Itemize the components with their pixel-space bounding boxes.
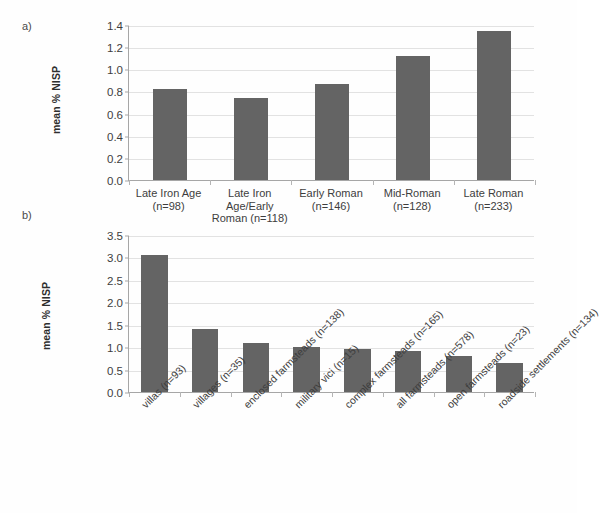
bar[interactable]: [153, 89, 187, 180]
panel-b-tag: b): [22, 209, 32, 221]
x-axis-category-label: Mid-Roman(n=128): [372, 187, 453, 212]
x-axis-tick-mark: [129, 180, 130, 185]
y-axis-tick-mark: [125, 236, 129, 237]
x-axis-tick-mark: [434, 392, 435, 397]
x-axis-category-label: Late IronAge/EarlyRoman (n=118): [209, 187, 290, 225]
x-axis-category-label-line: Mid-Roman: [372, 187, 453, 200]
y-axis-tick-mark: [125, 258, 129, 259]
x-axis-tick-mark: [454, 180, 455, 185]
x-axis-tick-mark: [210, 180, 211, 185]
x-axis-tick-mark: [129, 392, 130, 397]
y-axis-tick-mark: [125, 348, 129, 349]
y-axis-tick-mark: [125, 26, 129, 27]
panel-b-y-axis-title: mean % NISP: [40, 256, 52, 376]
x-axis-category-label-line: Late Iron: [209, 187, 290, 200]
y-axis-tick-label: 2.0: [107, 297, 123, 309]
x-axis-tick-mark: [535, 180, 536, 185]
x-axis-category-label-line: Age/Early: [209, 200, 290, 213]
y-axis-tick-label: 0.8: [107, 86, 123, 98]
x-axis-category-label-line: Late Iron Age: [128, 187, 209, 200]
y-axis-tick-mark: [125, 280, 129, 281]
panel-a-y-axis-title: mean % NISP: [50, 40, 62, 160]
y-axis-tick-label: 1.4: [107, 20, 123, 32]
y-axis-tick-label: 0.0: [107, 175, 123, 187]
y-axis-tick-mark: [125, 370, 129, 371]
x-axis-category-label-line: Late Roman: [453, 187, 534, 200]
x-axis-tick-mark: [291, 180, 292, 185]
y-axis-tick-label: 3.5: [107, 230, 123, 242]
y-axis-tick-label: 1.5: [107, 320, 123, 332]
x-axis-tick-mark: [332, 392, 333, 397]
bar[interactable]: [141, 255, 167, 392]
x-axis-category-label: Late Iron Age(n=98): [128, 187, 209, 212]
bar[interactable]: [234, 98, 268, 180]
y-axis-tick-label: 0.5: [107, 365, 123, 377]
bar[interactable]: [315, 84, 349, 180]
x-axis-category-label: Early Roman(n=146): [290, 187, 371, 212]
x-axis-category-label-line: (n=233): [453, 200, 534, 213]
chart-panel-b: mean % NISP 0.00.51.01.52.02.53.03.5 vil…: [0, 222, 577, 513]
y-axis-tick-mark: [125, 303, 129, 304]
x-axis-tick-mark: [281, 392, 282, 397]
gridline: [129, 70, 534, 71]
y-axis-tick-mark: [125, 70, 129, 71]
x-axis-tick-mark: [373, 180, 374, 185]
y-axis-tick-mark: [125, 325, 129, 326]
x-axis-tick-mark: [180, 392, 181, 397]
x-axis-tick-mark: [484, 392, 485, 397]
chart-panel-a: mean % NISP 0.00.20.40.60.81.01.21.4 Lat…: [0, 14, 577, 209]
x-axis-category-label-line: (n=128): [372, 200, 453, 213]
y-axis-tick-label: 0.0: [107, 387, 123, 399]
gridline: [129, 48, 534, 49]
gridline: [129, 26, 534, 27]
y-axis-tick-mark: [125, 158, 129, 159]
y-axis-tick-mark: [125, 92, 129, 93]
y-axis-tick-label: 2.5: [107, 275, 123, 287]
y-axis-tick-label: 0.4: [107, 131, 123, 143]
y-axis-tick-mark: [125, 114, 129, 115]
bar[interactable]: [477, 31, 511, 180]
gridline: [129, 348, 534, 349]
y-axis-tick-label: 3.0: [107, 252, 123, 264]
gridline: [129, 236, 534, 237]
y-axis-tick-mark: [125, 136, 129, 137]
gridline: [129, 258, 534, 259]
x-axis-category-label: Late Roman(n=233): [453, 187, 534, 212]
y-axis-tick-label: 0.2: [107, 153, 123, 165]
bar[interactable]: [396, 56, 430, 180]
y-axis-tick-mark: [125, 48, 129, 49]
y-axis-tick-label: 1.2: [107, 42, 123, 54]
y-axis-tick-label: 1.0: [107, 64, 123, 76]
panel-a-plot-area: 0.00.20.40.60.81.01.21.4: [128, 26, 534, 181]
gridline: [129, 303, 534, 304]
x-axis-category-label-line: (n=98): [128, 200, 209, 213]
x-axis-category-label-line: (n=146): [290, 200, 371, 213]
y-axis-tick-label: 0.6: [107, 109, 123, 121]
x-axis-tick-mark: [383, 392, 384, 397]
x-axis-tick-mark: [535, 392, 536, 397]
x-axis-category-label-line: Early Roman: [290, 187, 371, 200]
y-axis-tick-label: 1.0: [107, 342, 123, 354]
x-axis-tick-mark: [231, 392, 232, 397]
gridline: [129, 281, 534, 282]
